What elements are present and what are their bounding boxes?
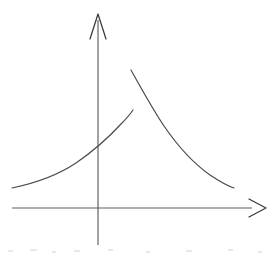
figure-canvas — [0, 0, 279, 257]
graph-sketch — [0, 0, 279, 257]
curve-right-branch — [131, 70, 234, 188]
scan-caption-strip — [0, 245, 279, 257]
curve-left-branch — [12, 110, 133, 188]
